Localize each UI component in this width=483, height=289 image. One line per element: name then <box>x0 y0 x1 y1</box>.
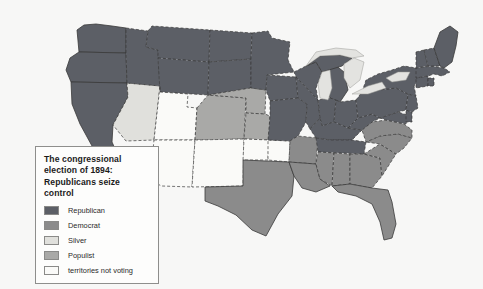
legend-swatch-silver <box>44 236 59 245</box>
legend-item-silver: Silver <box>44 236 151 245</box>
lake-huron <box>344 58 364 88</box>
map-legend: The congressional election of 1894: Repu… <box>35 146 159 284</box>
state-washington <box>77 24 126 53</box>
legend-swatch-democrat <box>44 221 59 230</box>
legend-label-republican: Republican <box>68 207 105 214</box>
state-new-jersey <box>406 94 418 112</box>
state-wyoming <box>158 58 209 95</box>
legend-label-territories: territories not voting <box>68 267 133 274</box>
state-iowa <box>266 75 298 101</box>
state-alabama <box>332 153 350 186</box>
state-connecticut <box>416 76 428 88</box>
legend-label-silver: Silver <box>68 237 86 244</box>
state-missouri <box>268 98 307 141</box>
state-georgia <box>350 154 382 188</box>
state-indian-territory <box>268 140 290 162</box>
state-oregon <box>66 52 127 83</box>
state-kansas <box>244 113 270 140</box>
legend-label-populist: Populist <box>68 252 94 259</box>
state-north-dakota <box>209 30 252 62</box>
legend-label-democrat: Democrat <box>68 222 100 229</box>
state-oklahoma <box>243 139 269 160</box>
region-south <box>310 110 412 240</box>
legend-item-republican: Republican <box>44 206 151 215</box>
state-rhode-island <box>428 78 434 86</box>
state-florida <box>332 184 396 240</box>
legend-title: The congressional election of 1894: Repu… <box>44 154 151 199</box>
state-new-mexico <box>192 139 244 187</box>
state-arkansas <box>289 136 318 164</box>
state-delaware <box>406 110 412 122</box>
legend-swatch-territories <box>44 266 59 275</box>
legend-item-democrat: Democrat <box>44 221 151 230</box>
map-figure: .st { stroke: #3a3a3a; stroke-width: 0.7… <box>0 0 483 289</box>
legend-swatch-republican <box>44 206 59 215</box>
state-tennessee <box>316 138 366 154</box>
legend-item-territories: territories not voting <box>44 266 151 275</box>
legend-item-populist: Populist <box>44 251 151 260</box>
legend-swatch-populist <box>44 251 59 260</box>
state-colorado <box>195 95 246 140</box>
